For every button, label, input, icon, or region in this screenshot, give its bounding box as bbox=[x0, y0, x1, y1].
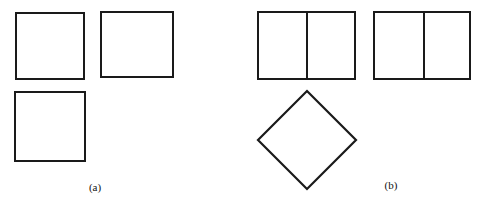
divided-rectangle-right bbox=[374, 12, 470, 79]
shapes-layer bbox=[0, 0, 481, 207]
panel-b-shapes bbox=[258, 12, 470, 189]
panel-label-a: (a) bbox=[0, 182, 190, 193]
panel-a-shapes bbox=[15, 12, 173, 161]
panel-label-b: (b) bbox=[336, 180, 446, 191]
square-top-left bbox=[16, 13, 84, 79]
square-bottom-left bbox=[15, 92, 85, 161]
square-top-right bbox=[101, 12, 173, 77]
figure-canvas: (a) (b) bbox=[0, 0, 481, 207]
diamond bbox=[258, 91, 356, 189]
